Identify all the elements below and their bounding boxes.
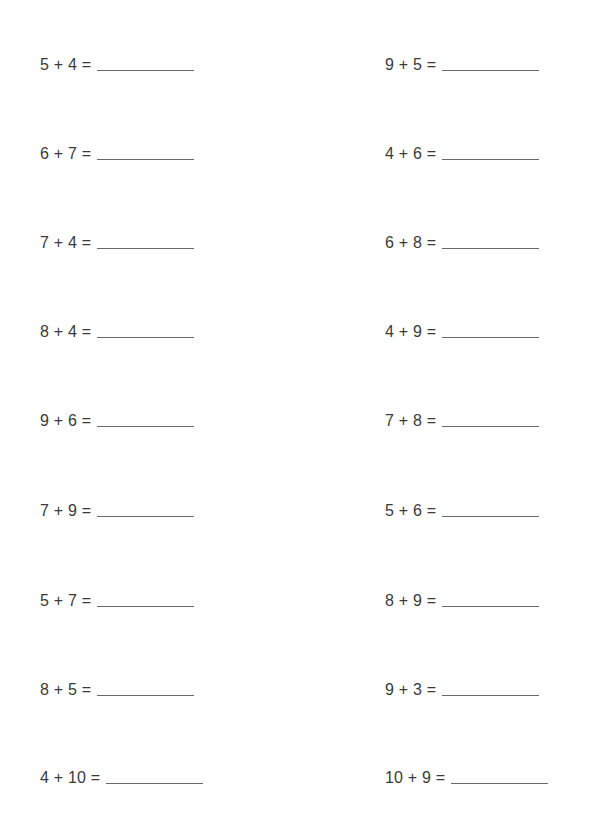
answer-blank[interactable] [97,425,194,427]
problem-expression: 9 + 3 = [385,681,436,699]
problem-expression: 7 + 9 = [40,502,91,520]
answer-blank[interactable] [442,69,539,71]
answer-blank[interactable] [97,158,194,160]
problem-left-4: 8 + 4 = [40,323,194,341]
problem-right-1: 9 + 5 = [385,56,539,74]
answer-blank[interactable] [442,425,539,427]
problem-expression: 6 + 7 = [40,145,91,163]
problem-right-6: 5 + 6 = [385,502,539,520]
problem-expression: 4 + 9 = [385,323,436,341]
problem-expression: 5 + 7 = [40,592,91,610]
answer-blank[interactable] [442,605,539,607]
answer-blank[interactable] [106,782,203,784]
answer-blank[interactable] [97,515,194,517]
problem-right-5: 7 + 8 = [385,412,539,430]
problem-right-7: 8 + 9 = [385,592,539,610]
problem-expression: 7 + 4 = [40,234,91,252]
problem-right-4: 4 + 9 = [385,323,539,341]
problem-right-2: 4 + 6 = [385,145,539,163]
problem-expression: 9 + 6 = [40,412,91,430]
answer-blank[interactable] [97,247,194,249]
problem-right-9: 10 + 9 = [385,769,548,787]
answer-blank[interactable] [442,515,539,517]
problem-expression: 4 + 6 = [385,145,436,163]
problem-left-8: 8 + 5 = [40,681,194,699]
answer-blank[interactable] [442,158,539,160]
problem-expression: 8 + 9 = [385,592,436,610]
problem-left-2: 6 + 7 = [40,145,194,163]
problem-expression: 4 + 10 = [40,769,100,787]
problem-left-7: 5 + 7 = [40,592,194,610]
problem-left-6: 7 + 9 = [40,502,194,520]
problem-expression: 10 + 9 = [385,769,445,787]
problem-left-9: 4 + 10 = [40,769,203,787]
answer-blank[interactable] [442,247,539,249]
problem-expression: 5 + 4 = [40,56,91,74]
problem-expression: 8 + 4 = [40,323,91,341]
answer-blank[interactable] [442,336,539,338]
problem-expression: 6 + 8 = [385,234,436,252]
problem-right-3: 6 + 8 = [385,234,539,252]
problem-expression: 5 + 6 = [385,502,436,520]
answer-blank[interactable] [451,782,548,784]
answer-blank[interactable] [442,694,539,696]
problem-left-5: 9 + 6 = [40,412,194,430]
answer-blank[interactable] [97,336,194,338]
answer-blank[interactable] [97,69,194,71]
answer-blank[interactable] [97,605,194,607]
answer-blank[interactable] [97,694,194,696]
problem-expression: 8 + 5 = [40,681,91,699]
problem-left-1: 5 + 4 = [40,56,194,74]
problem-expression: 7 + 8 = [385,412,436,430]
problem-expression: 9 + 5 = [385,56,436,74]
problem-right-8: 9 + 3 = [385,681,539,699]
problem-left-3: 7 + 4 = [40,234,194,252]
